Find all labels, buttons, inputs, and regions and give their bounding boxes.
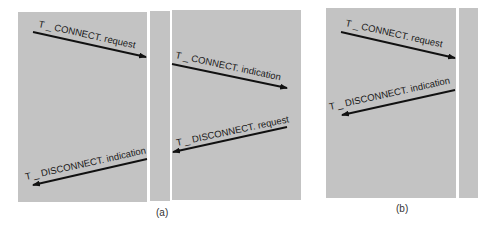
diagram-a-connect-request-label: T _ CONNECT. request xyxy=(38,18,137,50)
diagram-b-disconnect-indication: T _ DISCONNECT. indication xyxy=(328,75,455,115)
diagram-a-connect-indication: T _ CONNECT. indication xyxy=(172,49,287,88)
diagram-b-caption: (b) xyxy=(396,203,408,214)
diagram-a-connect-indication-label: T _ CONNECT. indication xyxy=(175,49,282,82)
diagram-b-connect-request: T _ CONNECT. request xyxy=(341,17,455,58)
diagram-b-disconnect-indication-label: T _ DISCONNECT. indication xyxy=(328,75,451,112)
diagram-a-disconnect-request: T _ DISCONNECT. request xyxy=(173,113,290,152)
diagram-arrows-layer: T _ CONNECT. request T _ CONNECT. indica… xyxy=(0,0,495,230)
diagram-a-caption: (a) xyxy=(156,207,168,218)
diagram-a-connect-request: T _ CONNECT. request xyxy=(33,18,146,57)
diagram-a-disconnect-indication: T _ DISCONNECT. indication xyxy=(24,145,147,185)
